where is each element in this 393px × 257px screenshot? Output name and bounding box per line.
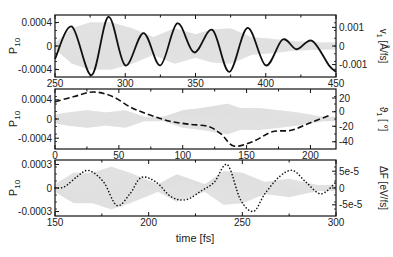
- y-axis-label-right: ΔF [eV/fs]: [378, 166, 389, 210]
- y-axis-label-right: v1 [Å/fs]: [376, 29, 390, 64]
- x-tick-label: 100: [174, 150, 191, 161]
- x-tick-label: 0: [52, 150, 58, 161]
- x-tick-label: 250: [47, 78, 64, 89]
- y-tick-label-right: -20: [339, 121, 354, 132]
- x-tick-label: 300: [328, 217, 345, 228]
- panel-3: 1502002503000.00030-0.00035e-50-5e-5P10Δ…: [7, 159, 389, 228]
- y-tick-label-left: -0.0003: [18, 206, 52, 217]
- panel-2: 0501001502000.00040-0.0004200-20-40P10ϑ1…: [7, 89, 389, 161]
- y-tick-label-right: 5e-5: [339, 166, 359, 177]
- x-tick-label: 150: [47, 217, 64, 228]
- y-tick-label-right: 0.001: [339, 22, 364, 33]
- y-tick-label-left: 0: [46, 41, 52, 52]
- y-tick-label-left: 0.0003: [21, 159, 52, 170]
- y-axis-label-right: ϑ1 [ °]: [376, 107, 389, 132]
- panel-1: 2503003504004500.00040-0.00040.0010-0.00…: [7, 15, 390, 89]
- p10-oscillation: [55, 167, 336, 209]
- y-tick-label-left: 0.0004: [21, 94, 52, 105]
- y-tick-label-left: -0.0004: [18, 133, 52, 144]
- y-tick-label-right: 0: [339, 183, 345, 194]
- x-tick-label: 450: [328, 78, 345, 89]
- x-tick-label: 150: [238, 150, 255, 161]
- y-tick-label-right: -5e-5: [339, 199, 363, 210]
- y-tick-label-right: -0.001: [339, 59, 368, 70]
- y-tick-label-left: 0: [46, 114, 52, 125]
- y-tick-label-left: -0.0004: [18, 64, 52, 75]
- y-tick-label-right: -40: [339, 136, 354, 147]
- y-tick-label-left: 0: [46, 183, 52, 194]
- x-tick-label: 250: [234, 217, 251, 228]
- y-tick-label-right: 0: [339, 106, 345, 117]
- x-tick-label: 200: [302, 150, 319, 161]
- y-tick-label-right: 20: [339, 93, 351, 104]
- x-tick-label: 50: [113, 150, 125, 161]
- y-axis-label-left: P10: [7, 110, 22, 127]
- figure: 2503003504004500.00040-0.00040.0010-0.00…: [0, 0, 393, 257]
- y-axis-label-left: P10: [7, 37, 22, 54]
- y-tick-label-left: 0.0004: [21, 17, 52, 28]
- x-tick-label: 400: [257, 78, 274, 89]
- x-tick-label: 300: [117, 78, 134, 89]
- x-tick-label: 350: [187, 78, 204, 89]
- y-axis-label-left: P10: [7, 179, 22, 196]
- x-axis-label: time [fs]: [176, 232, 215, 244]
- y-tick-label-right: 0: [339, 41, 345, 52]
- x-tick-label: 200: [140, 217, 157, 228]
